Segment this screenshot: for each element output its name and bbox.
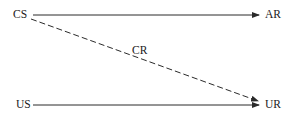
node-us-label: US (16, 99, 31, 111)
edge-cr-label: CR (132, 45, 147, 57)
diagram-arrows (0, 0, 299, 124)
node-ar-label: AR (265, 9, 281, 21)
node-ur-label: UR (265, 99, 281, 111)
node-cs-label: CS (13, 9, 27, 21)
dashed-arrow-cs-to-ur (31, 19, 258, 101)
conditioning-diagram: CS AR CR US UR (0, 0, 299, 124)
